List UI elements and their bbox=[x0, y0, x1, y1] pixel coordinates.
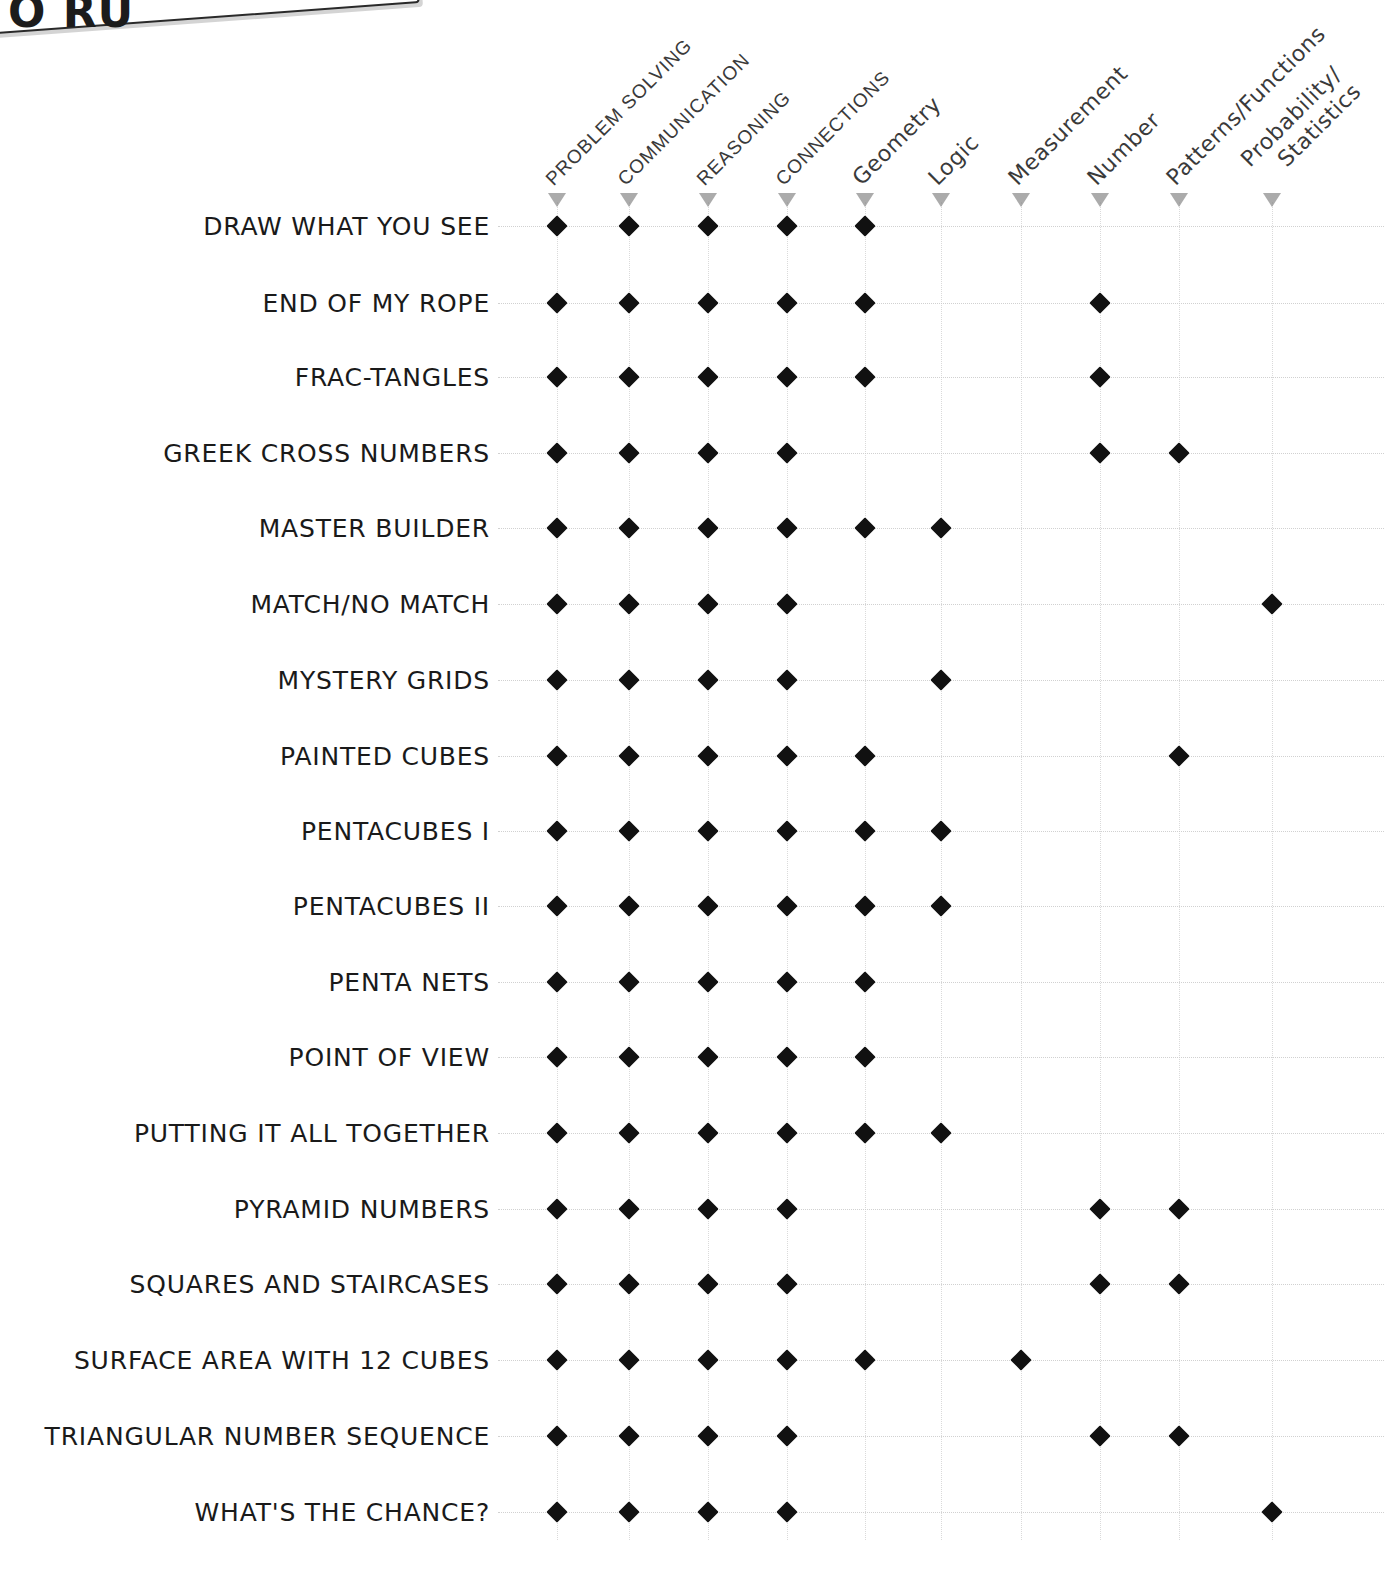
diamond-marker-icon bbox=[776, 517, 797, 538]
diamond-marker-icon bbox=[776, 1198, 797, 1219]
diamond-marker-icon bbox=[776, 669, 797, 690]
diamond-marker-icon bbox=[618, 1198, 639, 1219]
diamond-marker-icon bbox=[1089, 366, 1110, 387]
diamond-marker-icon bbox=[776, 971, 797, 992]
diamond-marker-icon bbox=[618, 1349, 639, 1370]
diamond-marker-icon bbox=[546, 292, 567, 313]
diamond-marker-icon bbox=[697, 593, 718, 614]
diamond-marker-icon bbox=[618, 593, 639, 614]
diamond-marker-icon bbox=[854, 517, 875, 538]
diamond-marker-icon bbox=[546, 895, 567, 916]
column-gridline bbox=[1100, 202, 1101, 1540]
column-gridline bbox=[865, 202, 866, 1540]
diamond-marker-icon bbox=[697, 1425, 718, 1446]
column-gridline bbox=[557, 202, 558, 1540]
diamond-marker-icon bbox=[618, 215, 639, 236]
row-label-17[interactable]: TRIANGULAR NUMBER SEQUENCE bbox=[0, 1422, 490, 1451]
diamond-marker-icon bbox=[697, 517, 718, 538]
column-marker-triangle-icon bbox=[1170, 193, 1188, 207]
diamond-marker-icon bbox=[697, 1501, 718, 1522]
column-marker-triangle-icon bbox=[856, 193, 874, 207]
row-label-4[interactable]: GREEK CROSS NUMBERS bbox=[0, 439, 490, 468]
column-marker-triangle-icon bbox=[620, 193, 638, 207]
diamond-marker-icon bbox=[776, 1425, 797, 1446]
diamond-marker-icon bbox=[1261, 593, 1282, 614]
diamond-marker-icon bbox=[546, 1425, 567, 1446]
column-marker-triangle-icon bbox=[1091, 193, 1109, 207]
diamond-marker-icon bbox=[697, 820, 718, 841]
column-marker-triangle-icon bbox=[548, 193, 566, 207]
diamond-marker-icon bbox=[546, 1273, 567, 1294]
diamond-marker-icon bbox=[776, 1349, 797, 1370]
diamond-marker-icon bbox=[697, 971, 718, 992]
column-marker-triangle-icon bbox=[699, 193, 717, 207]
diamond-marker-icon bbox=[618, 820, 639, 841]
row-label-12[interactable]: POINT OF VIEW bbox=[0, 1043, 490, 1072]
diamond-marker-icon bbox=[697, 745, 718, 766]
diamond-marker-icon bbox=[697, 1273, 718, 1294]
diamond-marker-icon bbox=[854, 1122, 875, 1143]
diamond-marker-icon bbox=[776, 745, 797, 766]
diamond-marker-icon bbox=[930, 1122, 951, 1143]
row-label-13[interactable]: PUTTING IT ALL TOGETHER bbox=[0, 1119, 490, 1148]
column-gridline bbox=[1272, 202, 1273, 1540]
column-gridline bbox=[1179, 202, 1180, 1540]
diamond-marker-icon bbox=[854, 215, 875, 236]
diamond-marker-icon bbox=[546, 1501, 567, 1522]
diamond-marker-icon bbox=[697, 1122, 718, 1143]
diamond-marker-icon bbox=[854, 1046, 875, 1067]
diamond-marker-icon bbox=[546, 442, 567, 463]
column-gridline bbox=[629, 202, 630, 1540]
diamond-marker-icon bbox=[618, 366, 639, 387]
row-label-7[interactable]: MYSTERY GRIDS bbox=[0, 666, 490, 695]
diamond-marker-icon bbox=[776, 292, 797, 313]
diamond-marker-icon bbox=[697, 895, 718, 916]
diamond-marker-icon bbox=[776, 593, 797, 614]
diamond-marker-icon bbox=[697, 1198, 718, 1219]
row-label-10[interactable]: PENTACUBES II bbox=[0, 892, 490, 921]
row-label-14[interactable]: PYRAMID NUMBERS bbox=[0, 1195, 490, 1224]
row-label-16[interactable]: SURFACE AREA WITH 12 CUBES bbox=[0, 1346, 490, 1375]
diamond-marker-icon bbox=[854, 745, 875, 766]
diamond-marker-icon bbox=[930, 895, 951, 916]
diamond-marker-icon bbox=[854, 895, 875, 916]
diamond-marker-icon bbox=[546, 1122, 567, 1143]
diamond-marker-icon bbox=[854, 1349, 875, 1370]
row-label-8[interactable]: PAINTED CUBES bbox=[0, 742, 490, 771]
diamond-marker-icon bbox=[618, 292, 639, 313]
column-gridline bbox=[708, 202, 709, 1540]
diamond-marker-icon bbox=[854, 971, 875, 992]
diamond-marker-icon bbox=[546, 366, 567, 387]
diamond-marker-icon bbox=[618, 971, 639, 992]
diamond-marker-icon bbox=[1261, 1501, 1282, 1522]
row-label-9[interactable]: PENTACUBES I bbox=[0, 817, 490, 846]
diamond-marker-icon bbox=[697, 442, 718, 463]
diamond-marker-icon bbox=[776, 1046, 797, 1067]
diamond-marker-icon bbox=[776, 1501, 797, 1522]
diamond-marker-icon bbox=[1089, 292, 1110, 313]
row-label-1[interactable]: DRAW WHAT YOU SEE bbox=[0, 212, 490, 241]
diamond-marker-icon bbox=[697, 215, 718, 236]
activity-strand-matrix-page: O RU PROBLEM SOLVINGCOMMUNICATIONREASONI… bbox=[0, 0, 1384, 1593]
diamond-marker-icon bbox=[697, 669, 718, 690]
diamond-marker-icon bbox=[854, 292, 875, 313]
row-label-11[interactable]: PENTA NETS bbox=[0, 968, 490, 997]
diamond-marker-icon bbox=[618, 517, 639, 538]
column-marker-triangle-icon bbox=[778, 193, 796, 207]
diamond-marker-icon bbox=[776, 1122, 797, 1143]
row-label-3[interactable]: FRAC-TANGLES bbox=[0, 363, 490, 392]
column-header-label: Logic bbox=[923, 130, 983, 190]
diamond-marker-icon bbox=[1089, 1425, 1110, 1446]
row-label-5[interactable]: MASTER BUILDER bbox=[0, 514, 490, 543]
column-marker-triangle-icon bbox=[1012, 193, 1030, 207]
row-label-2[interactable]: END OF MY ROPE bbox=[0, 289, 490, 318]
diamond-marker-icon bbox=[546, 593, 567, 614]
row-label-6[interactable]: MATCH/NO MATCH bbox=[0, 590, 490, 619]
row-label-15[interactable]: SQUARES AND STAIRCASES bbox=[0, 1270, 490, 1299]
diamond-marker-icon bbox=[930, 820, 951, 841]
diamond-marker-icon bbox=[776, 820, 797, 841]
diamond-marker-icon bbox=[1168, 745, 1189, 766]
diamond-marker-icon bbox=[546, 1046, 567, 1067]
column-marker-triangle-icon bbox=[932, 193, 950, 207]
row-label-18[interactable]: WHAT'S THE CHANCE? bbox=[0, 1498, 490, 1527]
